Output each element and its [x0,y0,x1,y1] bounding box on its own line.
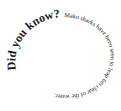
headline: Did you know? [4,6,61,71]
spiral-text-graphic: Did you know? Mako sharks have been seen… [0,0,121,111]
spiral-text: Did you know? Mako sharks have been seen… [4,3,117,101]
body-text: Mako sharks have been seen to leap 6m cl… [53,11,117,101]
